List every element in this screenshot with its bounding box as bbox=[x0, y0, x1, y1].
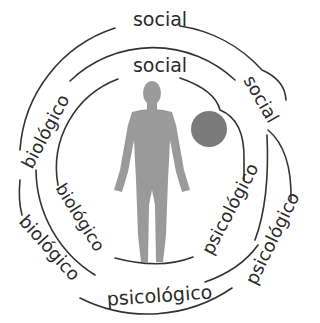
gray-circle bbox=[191, 111, 227, 147]
outer-top-label: social bbox=[133, 8, 187, 30]
outer-left-label: biológico bbox=[17, 91, 73, 172]
biopsychosocial-diagram: social social biológico biológico biológ… bbox=[0, 0, 320, 323]
inner-top-label: social bbox=[133, 54, 187, 76]
middle-right-label: psicológico bbox=[197, 160, 263, 258]
human-figure bbox=[114, 81, 190, 262]
outer-right-label: psicológico bbox=[241, 189, 304, 288]
